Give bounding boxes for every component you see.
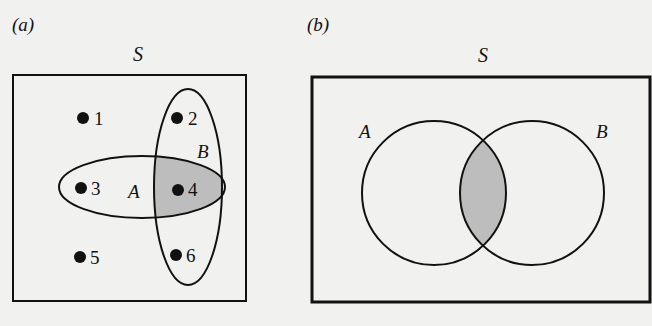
panel-b-set-b-label: B	[596, 121, 608, 142]
point-5-dot	[74, 251, 86, 263]
point-4-label: 4	[188, 179, 198, 200]
panel-a-set-a-label: A	[126, 181, 140, 202]
point-4-dot	[172, 184, 184, 196]
point-2-dot	[171, 112, 183, 124]
panel-b-label: (b)	[307, 14, 329, 36]
panel-b-universe-label: S	[478, 44, 488, 66]
point-2-label: 2	[188, 108, 198, 129]
panel-a: (a) S A B 1 2 3 4 5 6	[12, 14, 246, 301]
point-6-label: 6	[186, 245, 196, 266]
point-6-dot	[170, 249, 182, 261]
point-3-label: 3	[91, 178, 101, 199]
panel-a-universe-label: S	[133, 43, 143, 65]
panel-b-set-a-label: A	[357, 121, 371, 142]
point-3-dot	[75, 182, 87, 194]
point-1-dot	[77, 112, 89, 124]
panel-a-label: (a)	[12, 14, 34, 36]
panel-b: (b) S A B	[307, 14, 650, 302]
point-1-label: 1	[94, 108, 104, 129]
point-5-label: 5	[90, 247, 100, 268]
venn-diagram-figure: (a) S A B 1 2 3 4 5 6 (b) S A B	[0, 0, 652, 326]
panel-a-set-b-label: B	[197, 141, 209, 162]
